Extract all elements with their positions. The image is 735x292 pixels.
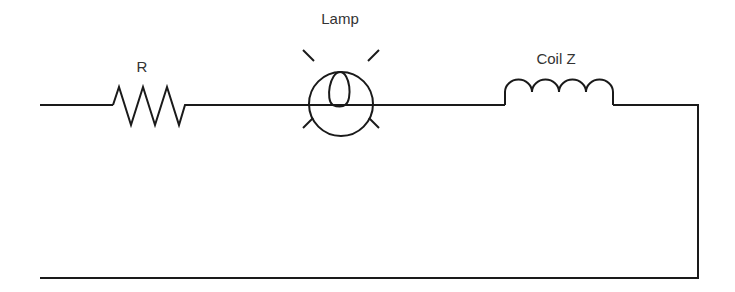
coil-icon	[505, 80, 613, 105]
circuit-diagram: R Lamp Coil Z	[0, 0, 735, 292]
lamp-label: Lamp	[321, 10, 359, 27]
resistor-icon	[113, 87, 187, 125]
resistor-label: R	[137, 58, 148, 75]
coil-label: Coil Z	[536, 50, 575, 67]
lamp-icon	[303, 50, 379, 136]
wire-return-path	[40, 105, 698, 278]
